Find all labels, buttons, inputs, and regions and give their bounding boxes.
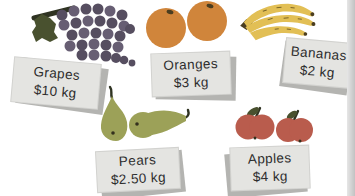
- fruit-price-label: $2 kg: [299, 61, 335, 82]
- fruit-name-label: Apples: [248, 149, 292, 169]
- oranges-icon: [143, 1, 233, 49]
- fruit-price-label: $10 kg: [33, 81, 77, 103]
- fruit-price-illustration: Grapes $10 kg Oranges $3 kg Bananas $2 k…: [0, 0, 355, 196]
- bananas-price-card: Bananas $2 kg: [284, 40, 352, 86]
- apples-icon: [234, 104, 324, 148]
- fruit-name-label: Pears: [118, 151, 156, 171]
- fruit-price-label: $4 kg: [252, 167, 288, 186]
- fruit-price-label: $3 kg: [173, 73, 209, 92]
- pears-price-card: Pears $2.50 kg: [96, 149, 180, 191]
- oranges-price-card: Oranges $3 kg: [151, 52, 231, 96]
- bananas-icon: [234, 2, 319, 42]
- fruit-name-label: Bananas: [290, 43, 347, 66]
- grapes-price-card: Grapes $10 kg: [12, 60, 100, 106]
- apples-price-card: Apples $4 kg: [230, 146, 310, 190]
- fruit-name-label: Oranges: [163, 55, 218, 75]
- fruit-price-label: $2.50 kg: [111, 169, 167, 190]
- page-edge-strip: [347, 0, 355, 196]
